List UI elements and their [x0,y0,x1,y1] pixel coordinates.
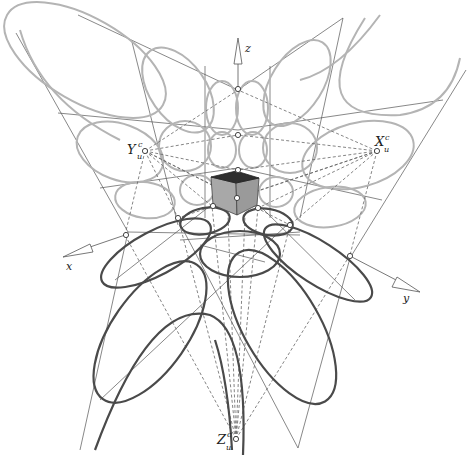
perspective-diagram: z x y Y c u X c u Z c u [0,0,474,462]
x-arrow-icon [63,244,93,257]
lower-grid-lines [80,206,355,450]
upper-grid-lines [16,15,466,258]
vanishing-point-Y: Y c u [127,140,148,161]
svg-text:Y: Y [127,142,137,157]
lower-dark-ellipses [72,204,382,455]
svg-text:c: c [138,140,143,149]
svg-text:c: c [385,133,390,142]
svg-text:c: c [227,430,232,439]
svg-text:u: u [384,145,389,154]
svg-text:u: u [137,152,142,161]
svg-text:u: u [226,443,231,452]
vanishing-point-X: X c u [374,133,390,154]
x-axis-label: x [66,260,73,273]
dashed-construction-lines [125,90,377,439]
y-axis: y [350,256,420,305]
y-axis-label: y [402,292,410,305]
y-arrow-icon [392,277,420,292]
z-axis-label: z [244,42,251,55]
x-axis: x [63,234,128,273]
z-arrow-icon [234,38,242,64]
